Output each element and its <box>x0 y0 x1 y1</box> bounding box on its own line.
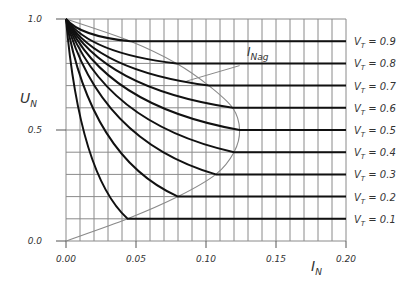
x-tick-label: 0.15 <box>266 254 286 264</box>
y-tick-label: 1.0 <box>28 14 43 24</box>
legend-label: VT = 0.4 <box>354 147 396 161</box>
legend-label: VT = 0.7 <box>354 81 396 95</box>
y-axis-label: UN <box>20 90 37 109</box>
envelope-annotation: INag <box>247 45 269 62</box>
annotation-leader <box>186 66 239 82</box>
x-tick-label: 0.00 <box>56 254 76 264</box>
legend-label: VT = 0.3 <box>354 169 396 183</box>
y-tick-label: 0.5 <box>28 125 43 135</box>
legend: VT = 0.9VT = 0.8VT = 0.7VT = 0.6VT = 0.5… <box>354 36 396 228</box>
legend-label: VT = 0.9 <box>354 36 396 50</box>
x-tick-label: 0.05 <box>126 254 146 264</box>
y-tick-label: 0.0 <box>28 236 43 246</box>
x-axis-label: IN <box>311 258 322 277</box>
legend-label: VT = 0.5 <box>354 125 396 139</box>
legend-label: VT = 0.2 <box>354 192 396 206</box>
x-tick-label: 0.20 <box>336 254 356 264</box>
x-tick-label: 0.10 <box>196 254 216 264</box>
legend-label: VT = 0.8 <box>354 58 396 72</box>
plot-frame <box>56 19 346 248</box>
chart: 0.000.050.100.150.200.00.51.0 VT = 0.9VT… <box>0 0 417 290</box>
legend-label: VT = 0.1 <box>354 214 396 228</box>
legend-label: VT = 0.6 <box>354 103 396 117</box>
